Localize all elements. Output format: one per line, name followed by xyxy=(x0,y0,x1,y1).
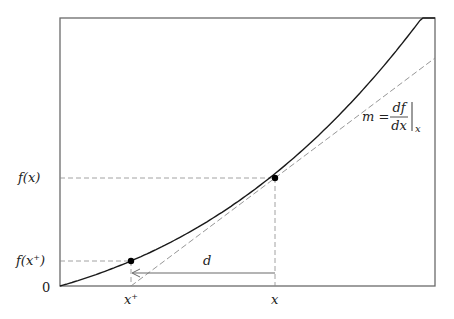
label-origin: 0 xyxy=(42,281,50,294)
plot-frame xyxy=(60,18,435,286)
function-curve xyxy=(60,18,435,286)
slope-subscript: x xyxy=(415,124,421,134)
label-xplus: x+ xyxy=(124,293,138,306)
label-fx: f(x) xyxy=(18,171,40,184)
label-fxplus-suffix: ) xyxy=(40,253,45,268)
label-x: x xyxy=(271,293,278,306)
slope-m-label: m = xyxy=(362,110,389,123)
label-xplus-sup: + xyxy=(131,292,138,301)
diagram-canvas xyxy=(0,0,454,319)
label-fxplus: f(x+) xyxy=(16,254,45,267)
point-xplus xyxy=(128,258,134,264)
slope-numerator: df xyxy=(390,101,408,114)
label-distance: d xyxy=(203,254,211,267)
point-x xyxy=(272,175,278,181)
label-fxplus-prefix: f(x xyxy=(16,253,33,268)
label-fxplus-sup: + xyxy=(33,253,40,262)
tangent-step-diagram: f(x) f(x+) 0 x+ x d m = df dx x xyxy=(0,0,454,319)
tangent-line xyxy=(131,58,435,286)
slope-denominator: dx xyxy=(389,119,409,132)
